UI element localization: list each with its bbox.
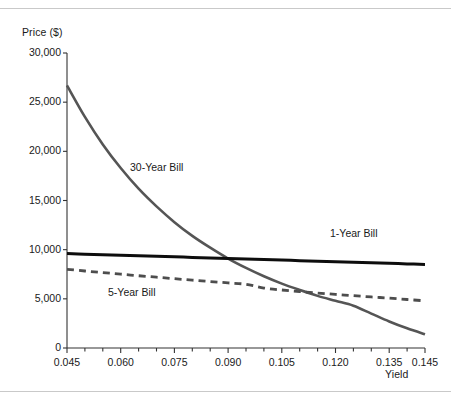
series-label-5-year-bill: 5-Year Bill	[108, 286, 155, 298]
y-tick-label: 5,000	[9, 292, 61, 304]
y-axis-title: Price ($)	[22, 26, 63, 38]
y-axis-ticks	[63, 53, 67, 348]
series-label-1-year-bill: 1-Year Bill	[330, 227, 377, 239]
x-tick-label: 0.090	[205, 356, 251, 368]
x-tick-label: 0.120	[313, 356, 359, 368]
x-tick-label: 0.105	[259, 356, 305, 368]
axis-lines	[67, 53, 425, 348]
x-tick-label: 0.060	[98, 356, 144, 368]
y-tick-label: 10,000	[9, 243, 61, 255]
x-axis-title: Yield	[385, 368, 408, 380]
series-line-1-year-bill	[67, 254, 425, 265]
x-tick-label: 0.145	[402, 356, 448, 368]
price-yield-chart	[0, 0, 451, 400]
x-axis-ticks	[67, 348, 425, 353]
y-tick-label: 30,000	[9, 46, 61, 58]
y-tick-label: 20,000	[9, 144, 61, 156]
y-tick-label: 15,000	[9, 194, 61, 206]
y-tick-label: 0	[9, 341, 61, 353]
series-label-30-year-bill: 30-Year Bill	[130, 161, 183, 173]
figure-container: Price ($) Yield 30-Year Bill 1-Year Bill…	[0, 0, 451, 400]
x-tick-label: 0.045	[44, 356, 90, 368]
y-tick-label: 25,000	[9, 95, 61, 107]
x-tick-label: 0.075	[151, 356, 197, 368]
